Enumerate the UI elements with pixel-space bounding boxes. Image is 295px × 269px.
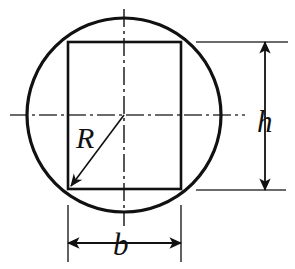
width-label: b <box>113 227 129 262</box>
height-label: h <box>257 104 273 139</box>
radius-label: R <box>75 121 94 154</box>
diagram-canvas: R h b <box>0 0 295 269</box>
circle-rectangle-diagram: R h b <box>0 0 295 269</box>
diagram-background <box>0 0 295 269</box>
